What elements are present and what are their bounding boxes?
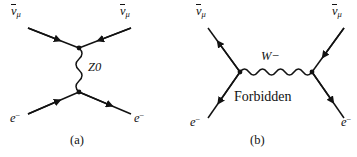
vertex-b-left <box>238 70 243 75</box>
label-propagator-w-minus: W− <box>261 50 280 63</box>
arrow-antineutrino-top-left <box>219 43 240 72</box>
line-electron-bottom-left <box>28 92 79 114</box>
arrow-electron-bottom-left <box>28 101 58 114</box>
label-propagator-z0: Z0 <box>88 61 101 74</box>
label-antineutrino-mu-b-top-right: νμ <box>332 5 342 18</box>
label-antineutrino-mu-b-top-left: νμ <box>196 5 206 18</box>
diagram-a-graphics <box>28 28 131 114</box>
overbar-wrap: ν <box>332 5 338 18</box>
arrow-antineutrino-top-left <box>28 28 58 40</box>
antiparticle-overbar <box>196 4 201 5</box>
diagram-b-graphics <box>208 28 344 118</box>
vertex-b-right <box>310 70 315 75</box>
label-electron-b-bottom-right: e− <box>341 115 351 128</box>
propagator-w-wave <box>240 69 312 75</box>
label-electron-a-bottom-left: e− <box>10 111 20 124</box>
line-antineutrino-top-left <box>28 28 79 48</box>
label-antineutrino-mu-a-top-right: νμ <box>120 5 130 18</box>
label-electron-b-bottom-left: e− <box>190 115 200 128</box>
arrow-electron-bottom-right <box>312 72 332 101</box>
feynman-diagram-figure: νμ νμ Z0 e− e− (a) νμ νμ W− Forbidden e−… <box>0 0 357 157</box>
diagram-vector-layer <box>0 0 357 157</box>
line-antineutrino-top-right <box>79 28 131 48</box>
caption-b: (b) <box>250 134 265 147</box>
vertex-a-top <box>77 46 82 51</box>
label-forbidden: Forbidden <box>234 90 292 104</box>
overbar-wrap: ν <box>11 5 17 18</box>
line-antineutrino-top-left <box>208 28 240 72</box>
arrow-antineutrino-top-right <box>324 28 344 56</box>
antiparticle-overbar <box>120 4 125 5</box>
line-antineutrino-top-right <box>312 28 344 72</box>
propagator-z0-wave <box>76 48 82 92</box>
label-electron-a-bottom-right: e− <box>134 111 144 124</box>
vertex-a-bottom <box>77 90 82 95</box>
overbar-wrap: ν <box>120 5 126 18</box>
overbar-wrap: ν <box>196 5 202 18</box>
arrow-antineutrino-top-right <box>100 28 131 40</box>
line-electron-bottom-right <box>312 72 344 118</box>
antiparticle-overbar <box>332 4 337 5</box>
label-antineutrino-mu-a-top-left: νμ <box>11 5 21 18</box>
caption-a: (a) <box>70 134 84 147</box>
line-electron-bottom-right <box>79 92 131 114</box>
arrow-electron-bottom-right <box>79 92 110 105</box>
antiparticle-overbar <box>11 4 16 5</box>
